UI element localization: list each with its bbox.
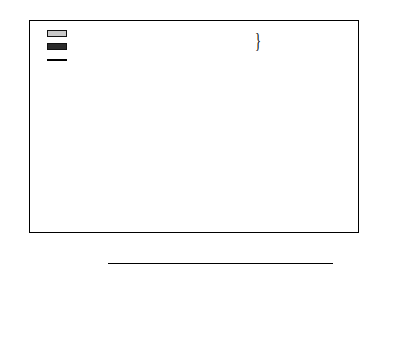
brace-icon: } bbox=[255, 30, 261, 51]
light-gray-box-icon bbox=[47, 30, 67, 37]
recycling-rate-line bbox=[30, 21, 358, 232]
formula1-fraction bbox=[108, 262, 333, 266]
chart-figure: } bbox=[0, 0, 404, 358]
recycling-rate-formula bbox=[18, 262, 342, 266]
legend-item-rate bbox=[47, 53, 73, 66]
chart-legend bbox=[47, 27, 73, 66]
legend-item-municipality bbox=[47, 40, 73, 53]
legend-item-community bbox=[47, 27, 73, 40]
formula1-denominator bbox=[108, 264, 333, 266]
plot-area bbox=[29, 20, 359, 233]
black-line-icon bbox=[47, 59, 67, 61]
legend-scale-brace: } bbox=[253, 27, 265, 53]
dark-box-icon bbox=[47, 43, 67, 50]
